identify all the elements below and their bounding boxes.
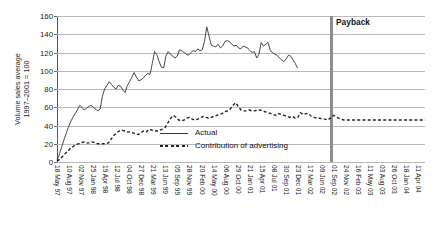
x-axis-tick-label: 11 Apr 04 [415,165,422,193]
x-axis-tick-label: 21 Mar 99 [150,165,157,195]
chart-legend: Actual Contribution of advertising [160,126,288,152]
x-axis-tick-label: 10 Aug 97 [66,165,73,195]
x-axis-tick-label: 29 Oct 00 [234,165,241,194]
y-axis-tick-label: 100 [31,66,53,75]
y-axis-tick-label: 40 [31,121,53,130]
x-axis-tick-label: 17 Mar 02 [306,165,313,195]
y-axis-tick-label: 20 [31,139,53,148]
y-axis-tick-label: 140 [31,30,53,39]
x-axis-tick-label: 09 Jun 02 [318,165,325,194]
x-axis-tick-label: 14 May 00 [210,165,217,196]
y-axis-title-line-1: Volume sales average [13,53,22,125]
y-axis-tick-label: 80 [31,85,53,94]
legend-swatch-dotted-icon [160,142,188,150]
x-axis-tick-label: 26 Oct 03 [391,165,398,194]
legend-label-contribution: Contribution of advertising [195,141,288,150]
x-axis-tick-label: 27 Dec 98 [138,165,145,195]
gridline [57,162,425,163]
legend-swatch-solid-icon [160,129,188,137]
x-axis-tick-label: 15 Apr 01 [258,165,265,193]
legend-label-actual: Actual [195,128,217,137]
x-axis-tick-label: 13 Jun 99 [162,165,169,194]
x-axis-tick-label: 04 Oct 98 [126,165,133,194]
payback-annotation-label: Payback [336,17,370,27]
x-axis-tick-label: 06 Aug 00 [222,165,229,195]
x-axis-tick-label: 20 Feb 00 [198,165,205,195]
x-axis-tick-label: 01 Sep 02 [330,165,337,195]
x-axis-tick-label: 03 Aug 03 [378,165,385,195]
x-axis-tick-label: 30 Sep 01 [282,165,289,195]
x-axis-tick-label: 08 Jul 01 [270,165,277,192]
x-axis-tick-label: 28 Nov 99 [186,165,193,195]
x-axis-tick-label: 02 Nov 97 [78,165,85,195]
y-axis-tick-label: 60 [31,103,53,112]
legend-item-contribution: Contribution of advertising [160,139,288,152]
x-axis-tick-label: 12 Jul 98 [114,165,121,192]
y-axis-tick-label: 160 [31,12,53,21]
x-axis-tick-label: 11 May 03 [366,165,373,195]
x-axis-tick-label: 23 Dec 01 [294,165,301,195]
y-axis-tick-label: 120 [31,48,53,57]
y-axis-tick-label: 0 [31,158,53,167]
x-axis-tick-label: 19 Apr 98 [102,165,109,193]
y-axis-tick-mark [54,162,57,163]
x-axis-tick-label: 24 Nov 02 [342,165,349,195]
x-axis-tick-label: 18 Jan 04 [403,165,410,194]
x-axis-tick-label: 21 Jan 01 [246,165,253,194]
x-axis-tick-label: 25 Jan 98 [90,165,97,194]
x-axis-tick-label: 16 Feb 03 [354,165,361,195]
x-axis-tick-label: 18 May 97 [54,165,61,196]
x-axis-tick-label: 05 Sep 99 [174,165,181,195]
legend-item-actual: Actual [160,126,288,139]
x-axis-tick-labels: 18 May 9710 Aug 9702 Nov 9725 Jan 9819 A… [57,165,425,226]
y-axis-tick-labels: 020406080100120140160 [29,0,53,226]
chart-container: Volume sales average 1997–2001 = 100 020… [0,0,441,226]
